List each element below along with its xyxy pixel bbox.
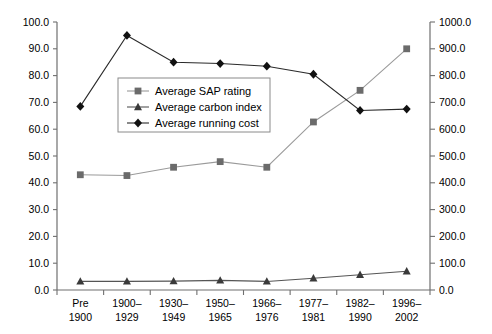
y-axis-left-tick-label: 10.0 (29, 257, 50, 269)
data-point (263, 164, 270, 171)
x-axis-category-label: 1930– (159, 297, 188, 309)
x-axis-category-label: 1900 (69, 311, 93, 323)
data-point (77, 171, 84, 178)
data-point (263, 62, 271, 71)
chart-container: 0.010.020.030.040.050.060.070.080.090.01… (0, 0, 492, 334)
data-point (76, 102, 84, 111)
data-point (170, 58, 178, 67)
y-axis-right-tick-label: 400.0 (439, 176, 465, 188)
line-chart: 0.010.020.030.040.050.060.070.080.090.01… (0, 0, 492, 334)
data-point (123, 31, 131, 40)
legend-swatch-marker (135, 88, 142, 95)
chart-legend: Average SAP ratingAverage carbon indexAv… (118, 78, 270, 132)
y-axis-left-tick-label: 80.0 (29, 69, 50, 81)
x-axis-category-label: 1950– (206, 297, 235, 309)
y-axis-right-tick-label: 700.0 (439, 96, 465, 108)
x-axis-category-label: 1966– (252, 297, 281, 309)
legend-item-label: Average carbon index (155, 101, 262, 113)
y-axis-right-tick-label: 600.0 (439, 123, 465, 135)
data-point (124, 172, 131, 179)
y-axis-left-tick-label: 60.0 (29, 123, 50, 135)
y-axis-left-tick-label: 0.0 (34, 284, 49, 296)
data-point (357, 87, 364, 94)
y-axis-left-tick-label: 20.0 (29, 230, 50, 242)
data-point (403, 267, 411, 274)
series-layer (76, 31, 410, 285)
y-axis-right: 0.0100.0200.0300.0400.0500.0600.0700.080… (430, 16, 471, 296)
legend-item-label: Average SAP rating (155, 85, 251, 97)
y-axis-right-tick-label: 100.0 (439, 257, 465, 269)
x-axis-category-label: 1949 (162, 311, 186, 323)
y-axis-left-tick-label: 90.0 (29, 42, 50, 54)
y-axis-right-tick-label: 300.0 (439, 203, 465, 215)
y-axis-left-tick-label: 30.0 (29, 203, 50, 215)
y-axis-left: 0.010.020.030.040.050.060.070.080.090.01… (23, 16, 57, 296)
y-axis-right-tick-label: 900.0 (439, 42, 465, 54)
data-point (403, 105, 411, 114)
x-axis-category-label: 1929 (115, 311, 139, 323)
y-axis-left-tick-label: 70.0 (29, 96, 50, 108)
data-point (310, 119, 317, 126)
data-point (403, 45, 410, 52)
x-axis-category-label: 1990 (348, 311, 372, 323)
data-point (170, 164, 177, 171)
x-axis-category-label: 1900– (112, 297, 141, 309)
y-axis-right-tick-label: 0.0 (439, 284, 454, 296)
data-point (217, 158, 224, 165)
x-axis-category-label: 1976 (255, 311, 279, 323)
y-axis-left-tick-label: 100.0 (23, 16, 49, 28)
y-axis-right-tick-label: 1000.0 (439, 16, 471, 28)
y-axis-left-tick-label: 50.0 (29, 150, 50, 162)
x-axis-category-label: 1965 (209, 311, 233, 323)
x-axis-category-label: 1977– (299, 297, 328, 309)
data-point (216, 59, 224, 68)
data-point (309, 70, 317, 79)
x-axis-category-label: 1982– (345, 297, 374, 309)
x-axis-category-label: 1981 (302, 311, 326, 323)
y-axis-right-tick-label: 500.0 (439, 150, 465, 162)
x-axis-category-label: 2002 (395, 311, 419, 323)
data-point (356, 106, 364, 115)
y-axis-right-tick-label: 200.0 (439, 230, 465, 242)
x-axis-category-label: 1996– (392, 297, 421, 309)
x-axis-category-label: Pre (72, 297, 89, 309)
y-axis-left-tick-label: 40.0 (29, 176, 50, 188)
x-axis: Pre19001900–19291930–19491950–19651966–1… (57, 290, 430, 323)
y-axis-right-tick-label: 800.0 (439, 69, 465, 81)
legend-item-label: Average running cost (155, 117, 259, 129)
